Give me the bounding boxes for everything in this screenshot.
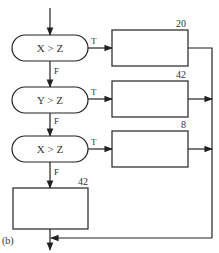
decision-2-false-label: F [54,116,59,126]
decision-1-condition: X > Z [37,42,64,54]
box-1-exit-line [188,48,212,238]
decision-3-false-label: F [54,167,59,177]
box-1 [112,30,188,66]
box-4-value: 42 [78,176,88,187]
decision-3-condition: X > Z [37,143,64,155]
decision-1-false-label: F [54,66,59,76]
decision-1-true-label: T [91,36,97,46]
box-1-value: 20 [176,18,186,29]
box-2-value: 42 [176,69,186,80]
figure-label: (b) [2,235,14,247]
box-3 [112,131,188,167]
box-4 [13,188,88,229]
box-2 [112,81,188,117]
flowchart: X > Z T F Y > Z T F X > Z T F 20 42 8 42… [0,0,219,253]
decision-2-true-label: T [91,87,97,97]
box-3-value: 8 [181,119,186,130]
decision-2-condition: Y > Z [37,94,63,106]
decision-3-true-label: T [91,137,97,147]
